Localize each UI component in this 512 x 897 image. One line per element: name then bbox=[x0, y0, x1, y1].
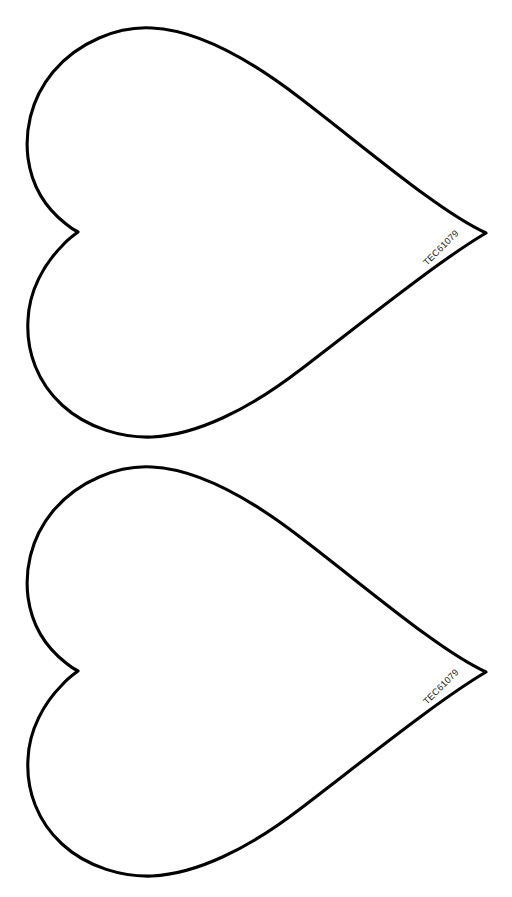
pattern-sheet: TEC61079 TEC61079 bbox=[0, 0, 512, 897]
pattern-canvas: TEC61079 TEC61079 bbox=[0, 0, 512, 897]
heart-shape-bottom: TEC61079 bbox=[27, 467, 486, 876]
heart-shape-top: TEC61079 bbox=[27, 28, 486, 437]
heart-outline-top bbox=[27, 28, 486, 437]
heart-outline-bottom bbox=[27, 467, 486, 876]
